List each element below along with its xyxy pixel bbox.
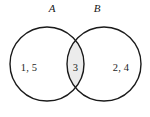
venn-diagram-canvas: A B 1, 5 3 2, 4 (0, 0, 150, 117)
venn-diagram-figure: A B 1, 5 3 2, 4 (0, 0, 150, 117)
set-b-label: B (94, 2, 101, 14)
intersection-elements: 3 (73, 62, 78, 73)
set-a-label: A (48, 2, 56, 14)
set-a-only-elements: 1, 5 (21, 62, 38, 73)
set-b-only-elements: 2, 4 (113, 62, 130, 73)
